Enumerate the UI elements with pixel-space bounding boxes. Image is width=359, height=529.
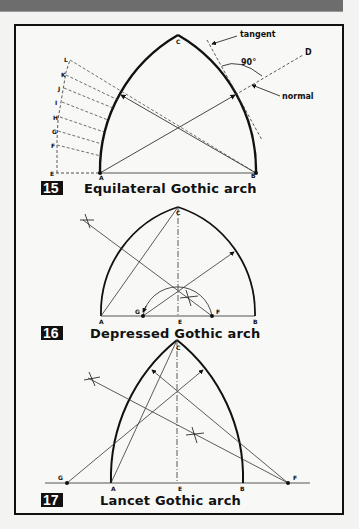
bisector-line: [83, 220, 212, 316]
chord-AC: [111, 340, 177, 483]
arc-cross-mark: [186, 427, 204, 443]
label-D: D: [305, 48, 312, 57]
figure-number: 17: [43, 492, 59, 508]
label-A: A: [99, 174, 104, 181]
label-G: G: [135, 308, 140, 315]
figure-15-equilateral-arch: C A B D tangent normal 90° L K J I H G F…: [41, 30, 314, 196]
arch-left-curve: [100, 35, 178, 173]
normal-label: normal: [282, 92, 314, 101]
point-F-marker: [286, 481, 290, 485]
arc-cross-mark: [84, 372, 100, 386]
angle-label: 90°: [241, 58, 256, 67]
ray-K: [66, 75, 118, 100]
radius-line-right: [100, 95, 235, 173]
figure-17-lancet-arch: C A B G F E 17 Lancet Gothic arch: [41, 340, 310, 508]
radius-line: [143, 252, 234, 316]
tangent-line: [207, 40, 262, 140]
side-label-K: K: [61, 71, 66, 78]
label-F: F: [293, 474, 297, 481]
label-G: G: [58, 474, 63, 481]
figure-caption: Depressed Gothic arch: [90, 326, 260, 341]
side-label-L: L: [64, 56, 68, 63]
label-B: B: [240, 485, 245, 492]
label-B: B: [253, 318, 258, 325]
label-F: F: [216, 308, 220, 315]
tangent-label: tangent: [240, 30, 276, 39]
point-G-marker: [65, 481, 69, 485]
ray-J: [64, 88, 113, 108]
radius-line-left: [121, 95, 256, 173]
arch-right-curve: [177, 340, 243, 483]
side-label-I: I: [55, 99, 57, 106]
figure-caption: Lancet Gothic arch: [100, 493, 241, 508]
label-C: C: [176, 209, 181, 216]
label-B: B: [251, 172, 256, 179]
side-label-G: G: [52, 128, 57, 135]
ray-G: [58, 131, 102, 144]
label-C: C: [176, 344, 181, 351]
label-A: A: [99, 318, 104, 325]
point-F-marker: [210, 314, 214, 318]
ray-I: [62, 102, 108, 120]
normal-leader: [252, 85, 280, 96]
label-C: C: [176, 38, 181, 45]
ray-F: [57, 145, 101, 156]
radius-line-left: [152, 370, 288, 483]
side-label-J: J: [57, 85, 60, 93]
ray-L: [70, 60, 256, 173]
label-A: A: [111, 485, 116, 492]
figure-number: 15: [43, 180, 59, 196]
side-label-E: E: [50, 170, 54, 177]
figure-number: 16: [43, 325, 59, 341]
arc-cross-mark: [80, 214, 94, 228]
point-G-marker: [141, 314, 145, 318]
side-label-F: F: [51, 142, 55, 149]
label-E: E: [178, 485, 182, 492]
tangent-leader: [212, 36, 237, 44]
gothic-arch-diagrams: C A B D tangent normal 90° L K J I H G F…: [0, 0, 359, 529]
side-label-H: H: [53, 114, 58, 121]
label-E: E: [178, 318, 182, 325]
figure-16-depressed-arch: C A B G F E 16 Depressed Gothic arch: [41, 207, 260, 341]
ray-H: [60, 117, 104, 132]
arch-right-curve: [178, 35, 256, 173]
figure-caption: Equilateral Gothic arch: [84, 181, 257, 196]
